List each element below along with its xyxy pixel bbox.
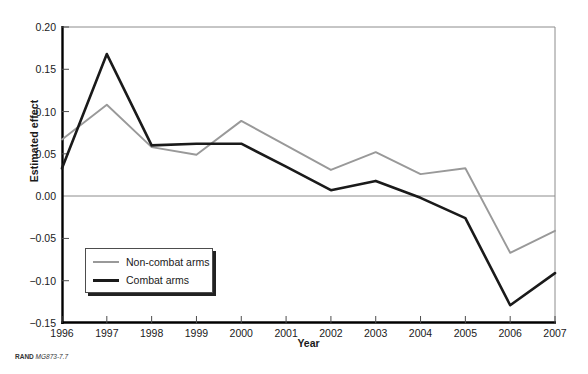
y-tick-label: 0.20 xyxy=(14,21,56,33)
y-tick-label: −0.10 xyxy=(14,275,56,287)
x-tick-label: 2007 xyxy=(525,327,585,339)
legend-swatch-combat-arms xyxy=(93,279,119,282)
legend-item-non-combat-arms: Non-combat arms xyxy=(93,253,209,271)
legend-item-combat-arms: Combat arms xyxy=(93,271,189,289)
y-axis-title: Estimated effect xyxy=(28,61,40,221)
credit-code: MG873-7.7 xyxy=(36,353,69,360)
y-tick-label: −0.05 xyxy=(14,232,56,244)
legend-label-non-combat-arms: Non-combat arms xyxy=(126,256,209,268)
figure-credit: RAND MG873-7.7 xyxy=(15,353,68,360)
credit-brand: RAND xyxy=(15,353,34,360)
legend-swatch-non-combat-arms xyxy=(93,261,119,263)
chart-legend: Non-combat arms Combat arms xyxy=(85,248,213,293)
legend-label-combat-arms: Combat arms xyxy=(126,274,189,286)
plot-area xyxy=(0,0,588,374)
chart-figure: 0.200.150.100.050.00−0.05−0.10−0.15 Esti… xyxy=(0,0,588,374)
